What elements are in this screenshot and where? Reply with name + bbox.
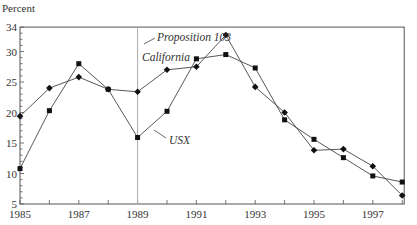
california-label: California: [142, 51, 190, 64]
diamond-marker: [340, 146, 347, 153]
square-marker: [194, 56, 199, 61]
y-tick-label: 10: [6, 168, 18, 180]
y-tick-label: 20: [6, 107, 18, 119]
proposition-leader-line: [144, 38, 155, 44]
y-tick-label: 15: [6, 137, 18, 149]
square-marker: [106, 87, 111, 92]
proposition-103-label: Proposition 103: [156, 31, 231, 44]
usx-label: USX: [169, 134, 191, 146]
square-marker: [135, 135, 140, 140]
square-marker: [400, 180, 405, 185]
square-marker: [370, 173, 375, 178]
plot-frame: [20, 27, 404, 204]
y-tick-label: 25: [6, 76, 18, 88]
square-marker: [165, 109, 170, 114]
x-tick-label: 1989: [127, 208, 150, 220]
x-tick-label: 1987: [68, 208, 91, 220]
x-tick-label: 1993: [244, 208, 267, 220]
square-marker: [312, 137, 317, 142]
square-marker: [282, 117, 287, 122]
square-marker: [76, 61, 81, 66]
x-tick-label: 1995: [303, 208, 326, 220]
series-line-california: [20, 35, 402, 195]
x-tick-label: 1991: [185, 208, 207, 220]
series-line-usx: [20, 55, 402, 182]
square-marker: [253, 65, 258, 70]
usx-leader-line: [154, 130, 166, 138]
diamond-marker: [164, 67, 171, 74]
square-marker: [223, 52, 228, 57]
diamond-marker: [134, 88, 141, 95]
y-tick-label: 30: [6, 46, 18, 58]
square-marker: [47, 108, 52, 113]
diamond-marker: [76, 74, 83, 81]
square-marker: [18, 166, 23, 171]
x-tick-label: 1985: [9, 208, 32, 220]
x-tick-label: 1997: [362, 208, 385, 220]
square-marker: [341, 155, 346, 160]
line-chart: 5101520253034198519871989199119931995199…: [0, 0, 417, 225]
y-tick-label: 34: [6, 21, 18, 33]
